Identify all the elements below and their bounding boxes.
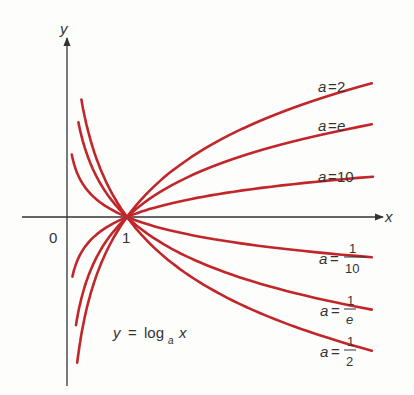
- svg-text:1: 1: [347, 293, 354, 308]
- svg-text:a: a: [318, 117, 326, 134]
- tick-label-1: 1: [122, 229, 130, 246]
- label-a-1-over-e: a = 1 e: [320, 293, 356, 327]
- label-a-2: a = 2: [318, 78, 345, 95]
- svg-text:a: a: [319, 250, 327, 267]
- svg-text:=: =: [328, 117, 337, 134]
- svg-text:a: a: [318, 168, 326, 185]
- svg-text:a: a: [318, 78, 326, 95]
- svg-text:1: 1: [349, 241, 356, 256]
- svg-text:=: =: [328, 168, 337, 185]
- label-a-1-over-10: a = 1 10: [319, 241, 366, 276]
- svg-text:x: x: [178, 324, 187, 341]
- log-curves-diagram: x y 0 1 y = log a x a = 2 a = e a = 10 a…: [0, 0, 414, 395]
- svg-text:=: =: [330, 250, 339, 267]
- svg-text:a: a: [168, 335, 174, 346]
- equation-label: y = log a x: [112, 324, 187, 346]
- svg-text:2: 2: [346, 354, 353, 369]
- svg-text:=: =: [331, 302, 340, 319]
- svg-text:e: e: [337, 117, 345, 134]
- label-a-10: a = 10: [318, 168, 354, 185]
- svg-text:a: a: [320, 343, 328, 360]
- svg-text:e: e: [346, 312, 353, 327]
- svg-text:2: 2: [337, 78, 345, 95]
- svg-text:=: =: [328, 78, 337, 95]
- origin-label: 0: [49, 229, 57, 246]
- svg-text:=: =: [128, 324, 137, 341]
- svg-text:a: a: [320, 302, 328, 319]
- label-a-e: a = e: [318, 117, 345, 134]
- x-axis-label: x: [384, 208, 393, 225]
- svg-text:y: y: [112, 324, 122, 341]
- svg-text:1: 1: [347, 334, 354, 349]
- svg-text:10: 10: [337, 168, 354, 185]
- y-axis-label: y: [59, 20, 69, 37]
- svg-text:=: =: [331, 343, 340, 360]
- svg-text:10: 10: [345, 261, 359, 276]
- label-a-1-over-2: a = 1 2: [320, 334, 356, 369]
- svg-text:log: log: [144, 324, 164, 341]
